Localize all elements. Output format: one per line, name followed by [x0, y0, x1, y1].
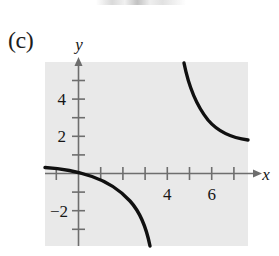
y-tick-label--2: −2: [50, 202, 68, 221]
x-tick-label-6: 6: [207, 185, 216, 204]
x-axis-arrowhead: [253, 170, 262, 178]
figure-panel-c: (c): [0, 0, 279, 256]
x-tick-label-4: 4: [163, 185, 172, 204]
y-tick-label-4: 4: [58, 90, 67, 109]
y-tick-label-2: 2: [58, 127, 67, 146]
y-axis-label: y: [73, 35, 83, 54]
x-axis-label: x: [261, 165, 270, 184]
curve-right-branch: [184, 63, 248, 140]
graph-svg: 4 6 4 2 −2 x y: [0, 0, 279, 256]
y-axis-arrowhead: [75, 57, 83, 66]
